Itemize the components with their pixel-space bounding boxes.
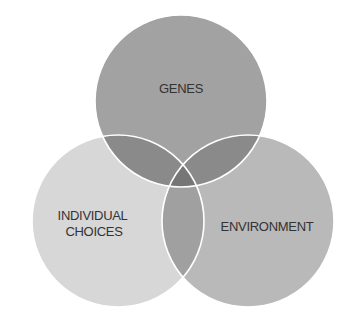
venn-diagram: GENES INDIVIDUAL CHOICES ENVIRONMENT <box>0 0 349 326</box>
label-genes: GENES <box>159 81 204 96</box>
label-individual-choices: INDIVIDUAL CHOICES <box>58 208 131 239</box>
label-environment: ENVIRONMENT <box>221 219 314 234</box>
